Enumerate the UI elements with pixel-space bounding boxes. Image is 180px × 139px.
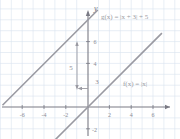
y-tick-label-minus2: -2 xyxy=(92,127,97,133)
function-label-f: f(x) = |x| xyxy=(123,80,147,88)
x-tick-label-minus2: -2 xyxy=(63,112,68,118)
function-label-g: g(x) = |x + 3| + 5 xyxy=(101,13,149,21)
x-tick-label-2: 2 xyxy=(108,112,111,118)
x-tick-label-4: 4 xyxy=(130,112,133,118)
annotation-label-vertical-shift: 5 xyxy=(69,64,73,72)
x-tick-label-minus6: -6 xyxy=(20,112,25,118)
x-tick-label-minus4: -4 xyxy=(42,112,47,118)
coordinate-plane-svg: -6 -4 -2 2 4 6 6 4 -2 y 5 xyxy=(0,0,180,139)
y-tick-label-4: 4 xyxy=(94,61,97,67)
y-tick-label-6: 6 xyxy=(94,39,97,45)
x-tick-label-6: 6 xyxy=(152,112,155,118)
annotation-label-horizontal-shift: 3 xyxy=(95,78,99,86)
graph-canvas: -6 -4 -2 2 4 6 6 4 -2 y 5 xyxy=(0,0,180,139)
